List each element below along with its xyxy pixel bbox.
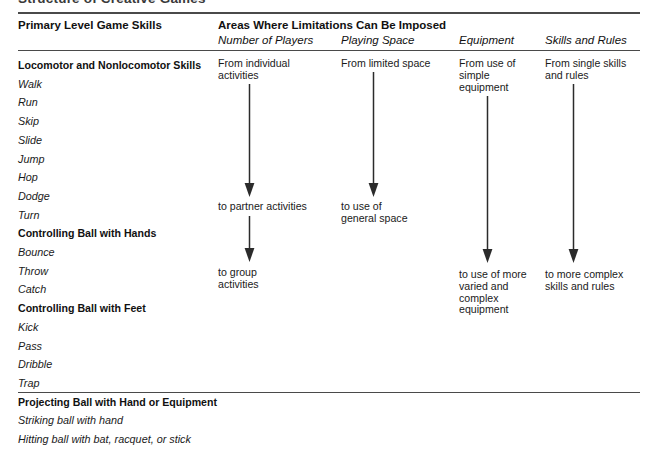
rule-top <box>18 12 640 14</box>
rule-header-separator <box>18 50 640 51</box>
skill-group-heading: Controlling Ball with Hands <box>18 224 213 243</box>
skill-item: Throw <box>18 262 213 281</box>
skill-item: Turn <box>18 206 213 225</box>
skill-group-heading: Controlling Ball with Feet <box>18 299 213 318</box>
skill-item: Dribble <box>18 355 213 374</box>
skill-group-heading: Locomotor and Nonlocomotor Skills <box>18 56 213 75</box>
arrow-down-rules-1 <box>567 84 580 263</box>
column-header-skills-and-rules: Skills and Rules <box>545 34 627 46</box>
skill-item: Kick <box>18 318 213 337</box>
skill-item: Walk <box>18 75 213 94</box>
skill-item: Slide <box>18 131 213 150</box>
progression-text-players-from: From individual activities <box>218 58 290 82</box>
skill-item: Catch <box>18 280 213 299</box>
column-header-number-of-players: Number of Players <box>218 34 313 46</box>
skill-item: Hitting ball with bat, racquet, or stick <box>18 430 213 449</box>
skill-item: Bounce <box>18 243 213 262</box>
column-header-equipment: Equipment <box>459 34 514 46</box>
arrow-down-players-1 <box>243 84 256 197</box>
skill-item: Skip <box>18 112 213 131</box>
skill-item: Trap <box>18 374 213 393</box>
header-areas-where-limitations-can-be-imposed: Areas Where Limitations Can Be Imposed <box>218 19 446 31</box>
arrow-down-space-1 <box>367 72 380 197</box>
skill-item: Striking ball with hand <box>18 411 213 430</box>
progression-text-rules-to: to more complex skills and rules <box>545 269 623 293</box>
skill-group-heading: Projecting Ball with Hand or Equipment <box>18 393 213 412</box>
progression-text-players-to: to group activities <box>218 267 259 291</box>
skill-item: Dodge <box>18 187 213 206</box>
progression-text-space-to: to use of general space <box>341 201 408 225</box>
progression-text-players-middle: to partner activities <box>218 201 307 213</box>
progression-text-rules-from: From single skills and rules <box>545 58 626 82</box>
skill-item: Pass <box>18 337 213 356</box>
arrow-down-equipment-1 <box>481 96 494 263</box>
skill-item: Run <box>18 93 213 112</box>
progression-text-equipment-from: From use of simple equipment <box>459 58 516 93</box>
arrow-down-players-2 <box>243 216 256 262</box>
progression-text-space-from: From limited space <box>341 58 430 70</box>
figure-title: Structure of Creative Games <box>18 0 206 4</box>
skill-item: Hop <box>18 168 213 187</box>
column-header-playing-space: Playing Space <box>341 34 415 46</box>
progression-text-equipment-to: to use of more varied and complex equipm… <box>459 269 527 316</box>
skills-list: Locomotor and Nonlocomotor Skills Walk R… <box>18 56 213 449</box>
header-primary-level-game-skills: Primary Level Game Skills <box>18 19 162 31</box>
skill-item: Jump <box>18 150 213 169</box>
